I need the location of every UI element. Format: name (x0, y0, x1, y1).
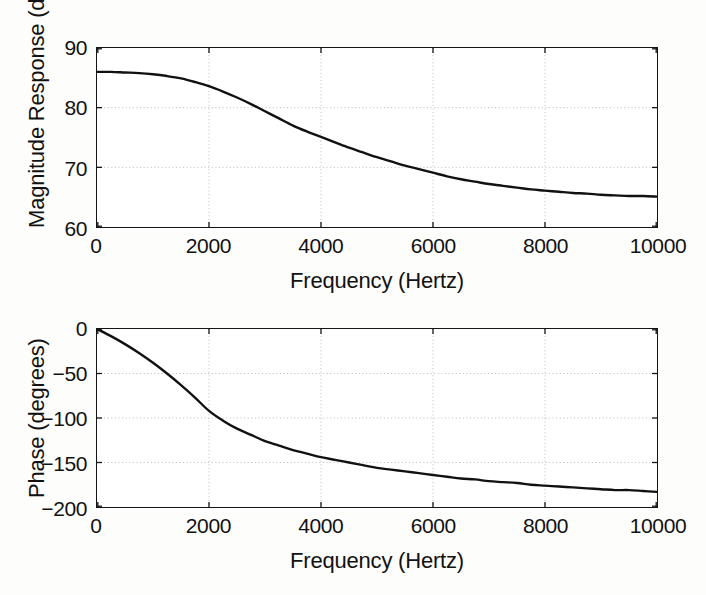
magnitude-y-tick-label: 80 (0, 97, 87, 118)
magnitude-y-tick-label: 60 (0, 218, 87, 239)
phase-y-tick-label: −200 (0, 498, 87, 519)
phase-x-tick-label: 10000 (630, 515, 686, 536)
phase-x-tick-label: 2000 (186, 515, 231, 536)
magnitude-x-tick-label: 8000 (523, 235, 568, 256)
magnitude-response-panel: Magnitude Response (dB) 60708090 0200040… (0, 0, 706, 300)
phase-x-tick-label: 8000 (523, 515, 568, 536)
phase-y-tick-label: −100 (0, 408, 87, 429)
phase-curve (97, 329, 657, 507)
phase-x-axis-title: Frequency (Hertz) (290, 548, 464, 574)
phase-x-tick-label: 4000 (298, 515, 343, 536)
magnitude-y-tick-label: 90 (0, 37, 87, 58)
phase-x-tick-label: 0 (90, 515, 101, 536)
magnitude-y-tick-label: 70 (0, 157, 87, 178)
magnitude-plot-box (96, 47, 658, 228)
phase-response-panel: Phase (degrees) −200−150−100−500 0200040… (0, 300, 706, 595)
phase-y-tick-label: 0 (0, 318, 87, 339)
magnitude-x-tick-label: 6000 (411, 235, 456, 256)
phase-x-tick-label: 6000 (411, 515, 456, 536)
phase-plot-box (96, 328, 658, 508)
magnitude-x-tick-label: 10000 (630, 235, 686, 256)
frequency-response-figure: Magnitude Response (dB) 60708090 0200040… (0, 0, 706, 595)
magnitude-x-axis-title: Frequency (Hertz) (290, 268, 464, 294)
magnitude-curve (97, 48, 657, 227)
magnitude-x-tick-label: 4000 (298, 235, 343, 256)
magnitude-x-tick-label: 0 (90, 235, 101, 256)
phase-y-tick-label: −150 (0, 453, 87, 474)
magnitude-x-tick-label: 2000 (186, 235, 231, 256)
phase-y-tick-label: −50 (0, 363, 87, 384)
